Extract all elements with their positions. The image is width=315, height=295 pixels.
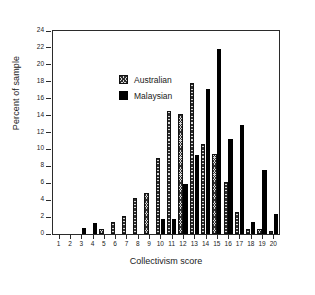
bar-malaysian-17 [240,125,244,234]
bar-australian-18 [246,229,250,234]
x-tick-mark [126,235,127,239]
y-tick-mark [46,64,51,65]
bar-malaysian-20 [274,214,278,234]
y-tick-mark [46,217,51,218]
bar-australian-7 [122,216,126,234]
legend-label-australian: Australian [134,75,172,85]
chart-figure: Australian Malaysian 0246810121416182022… [0,0,315,295]
y-tick-label: 18 [24,77,44,84]
bar-australian-5 [99,229,103,234]
y-tick-label: 24 [24,26,44,33]
y-axis-title: Percent of sample [11,33,21,153]
x-tick-mark [206,235,207,239]
y-tick-mark [46,98,51,99]
y-tick-mark [46,149,51,150]
y-tick-mark [46,31,51,32]
bar-malaysian-4 [93,223,97,234]
bar-malaysian-12 [183,184,187,234]
bar-australian-6 [111,222,115,234]
bar-malaysian-16 [228,139,232,234]
y-tick-label: 14 [24,111,44,118]
y-tick-label: 0 [24,229,44,236]
bar-malaysian-11 [172,219,176,234]
bar-malaysian-18 [251,222,255,234]
x-axis-title: Collectivism score [52,256,280,266]
legend-label-malaysian: Malaysian [134,91,172,101]
x-tick-mark [93,235,94,239]
x-tick-label: 20 [265,240,281,247]
x-tick-mark [217,235,218,239]
y-tick-mark [46,81,51,82]
bar-australian-19 [257,229,261,234]
bar-australian-10 [156,158,160,234]
x-tick-mark [172,235,173,239]
bar-australian-12 [178,114,182,234]
x-tick-mark [104,235,105,239]
y-tick-mark [46,183,51,184]
bar-malaysian-10 [161,219,165,234]
y-tick-mark [46,166,51,167]
x-tick-mark [149,235,150,239]
legend-swatch-malaysian [119,91,128,100]
x-tick-mark [273,235,274,239]
x-tick-mark [183,235,184,239]
y-tick-label: 16 [24,94,44,101]
x-tick-mark [70,235,71,239]
x-tick-mark [262,235,263,239]
legend-swatch-australian [119,75,128,84]
y-tick-label: 10 [24,144,44,151]
x-tick-mark [228,235,229,239]
y-tick-label: 2 [24,212,44,219]
x-tick-mark [59,235,60,239]
x-tick-mark [239,235,240,239]
chart-legend: Australian Malaysian [119,73,172,105]
y-tick-mark [46,234,51,235]
x-tick-mark [160,235,161,239]
bar-malaysian-14 [206,89,210,234]
x-tick-mark [251,235,252,239]
y-tick-mark [46,200,51,201]
y-tick-mark [46,115,51,116]
bar-malaysian-15 [217,49,221,234]
bar-malaysian-3 [82,228,86,234]
y-tick-label: 22 [24,43,44,50]
bar-australian-20 [269,231,273,234]
bar-australian-16 [224,182,228,234]
y-tick-label: 12 [24,128,44,135]
x-tick-mark [138,235,139,239]
x-tick-mark [194,235,195,239]
y-tick-label: 6 [24,178,44,185]
bar-australian-15 [212,154,216,234]
bar-australian-13 [190,83,194,234]
y-tick-label: 20 [24,60,44,67]
bar-australian-11 [167,111,171,234]
plot-area: Australian Malaysian [52,30,280,235]
bar-malaysian-13 [195,155,199,234]
y-tick-mark [46,132,51,133]
bar-malaysian-19 [262,170,266,234]
bar-australian-8 [133,198,137,234]
x-tick-mark [81,235,82,239]
bar-australian-17 [235,212,239,234]
y-tick-label: 4 [24,195,44,202]
legend-item-australian: Australian [119,73,172,86]
bars-layer [53,31,279,234]
legend-item-malaysian: Malaysian [119,89,172,102]
y-tick-mark [46,47,51,48]
bar-australian-9 [144,193,148,234]
x-tick-mark [115,235,116,239]
bar-australian-14 [201,144,205,234]
y-tick-label: 8 [24,161,44,168]
